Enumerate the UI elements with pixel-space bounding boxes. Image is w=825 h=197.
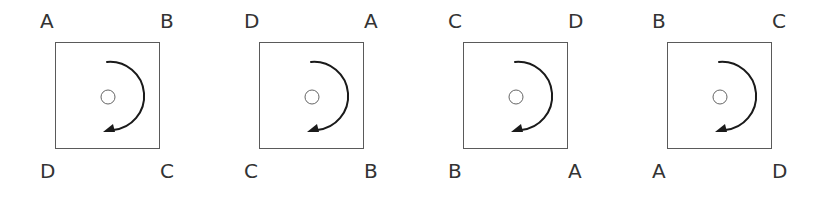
arrowhead-icon xyxy=(715,124,727,132)
panel-4: B C A D xyxy=(667,0,825,197)
corner-label-top-left: D xyxy=(244,11,259,31)
corner-label-top-right: D xyxy=(568,11,583,31)
corner-label-bottom-right: A xyxy=(568,161,582,181)
pivot-circle-icon xyxy=(509,90,523,104)
rotation-arrow-icon xyxy=(463,42,569,150)
corner-label-bottom-left: B xyxy=(448,161,462,181)
corner-label-bottom-left: A xyxy=(652,161,666,181)
rotation-arrow-icon xyxy=(259,42,365,150)
rotation-diagram: A B D C D A C B C D B A xyxy=(0,0,825,197)
corner-label-bottom-right: C xyxy=(160,161,174,181)
corner-label-bottom-right: B xyxy=(364,161,378,181)
pivot-circle-icon xyxy=(713,90,727,104)
corner-label-top-left: A xyxy=(40,11,54,31)
panel-3: C D B A xyxy=(463,0,623,197)
rotation-arrow-icon xyxy=(667,42,773,150)
arrowhead-icon xyxy=(103,124,115,132)
corner-label-top-left: B xyxy=(652,11,666,31)
corner-label-bottom-left: C xyxy=(244,161,258,181)
corner-label-top-right: A xyxy=(364,11,378,31)
arrowhead-icon xyxy=(307,124,319,132)
panel-1: A B D C xyxy=(55,0,215,197)
rotation-arrow-icon xyxy=(55,42,161,150)
pivot-circle-icon xyxy=(101,90,115,104)
corner-label-top-right: B xyxy=(160,11,174,31)
corner-label-bottom-right: D xyxy=(772,161,787,181)
pivot-circle-icon xyxy=(305,90,319,104)
corner-label-top-right: C xyxy=(772,11,786,31)
arrowhead-icon xyxy=(511,124,523,132)
corner-label-bottom-left: D xyxy=(40,161,55,181)
corner-label-top-left: C xyxy=(448,11,462,31)
panel-2: D A C B xyxy=(259,0,419,197)
